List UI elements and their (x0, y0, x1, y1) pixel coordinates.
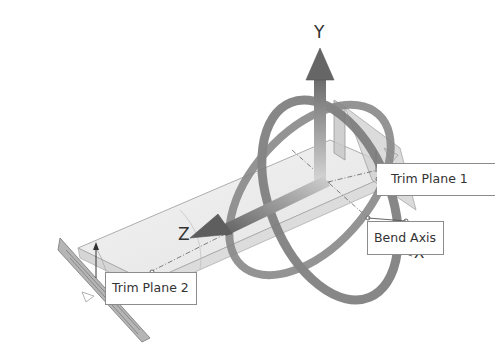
callout-bend-axis-label: Bend Axis (374, 232, 436, 245)
callout-trim-plane-1[interactable]: Trim Plane 1 (377, 163, 495, 196)
callout-trim-plane-1-label: Trim Plane 1 (383, 173, 468, 186)
axis-label-y: Y (314, 24, 324, 41)
axis-label-z: Z (178, 226, 190, 243)
callout-trim-plane-2[interactable]: Trim Plane 2 (105, 272, 197, 305)
callout-trim-plane-2-label: Trim Plane 2 (112, 282, 189, 295)
callout-bend-axis[interactable]: Bend Axis (367, 221, 444, 255)
